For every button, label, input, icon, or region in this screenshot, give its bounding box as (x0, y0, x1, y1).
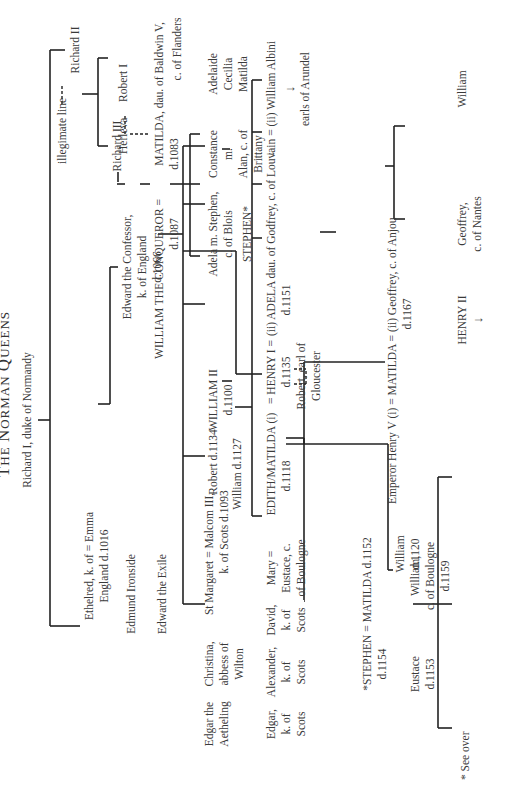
person-edward-exile: Edward the Exile (155, 554, 170, 634)
person-david-title: k. of (279, 609, 294, 630)
person-william-boulogne-death: d.1159 (438, 560, 453, 591)
person-mary-spouse-title: of Boulogne (294, 539, 309, 596)
person-adela-blois-spouse: c. of Blois (221, 210, 236, 258)
person-robert-i: Robert I (116, 64, 131, 102)
person-edgar-scots-title: k. of (279, 713, 294, 734)
person-cecilia: Cecilia (221, 58, 236, 91)
legend-label: illegimate line (55, 98, 70, 164)
person-william-ii-death: d.1100 (221, 384, 236, 415)
person-constance-m: m. (221, 148, 236, 160)
earls-of-arundel: earls of Arundel (298, 52, 313, 126)
person-alexander-title: k. of (279, 661, 294, 682)
person-henry-i-death: d.1135 (279, 356, 294, 387)
person-alexander: Alexander, (264, 647, 279, 697)
person-edward-confessor: Edward the Confessor, (120, 215, 135, 320)
family-tree-page: THE NORMAN QUEENS (0, 0, 506, 794)
person-matilda-flanders-title: c. of Flanders (170, 18, 185, 81)
person-geoffrey-nantes-title: c. of Nantes (470, 196, 485, 251)
person-mary: Mary = (264, 551, 279, 585)
person-stephen-death: d.1154 (375, 648, 390, 679)
person-edward-confessor-title: k. of England (135, 236, 150, 298)
person-robert-gloucester: Robert, earl of (294, 343, 309, 410)
person-mary-spouse: Eustace, c. (279, 543, 294, 593)
person-adela-louvain-death: d.1151 (279, 284, 294, 315)
person-herleva: Herleva (116, 118, 131, 154)
person-adelaide: Adelaide (206, 53, 221, 95)
person-edgar-scots: Edgar, (264, 709, 279, 739)
person-matilda-flanders: MATILDA, dau. of Baldwin V, (152, 22, 167, 166)
person-margaret-malcolm: St Margaret = Malcom III, (202, 493, 217, 615)
person-richard-ii: Richard II (68, 27, 83, 74)
person-alexander-realm: Scots (294, 660, 309, 685)
person-william-boulogne-title: c. of Boulogne (423, 542, 438, 610)
person-william-clito: William d.1127 (230, 438, 245, 509)
person-christina: Christina, (202, 641, 217, 686)
person-henry-i: = HENRY I = (264, 340, 279, 404)
person-william-ii: WILLIAM II (206, 369, 221, 431)
person-eustace-death: d.1153 (423, 658, 438, 689)
person-geoffrey-nantes: Geoffrey, (455, 202, 470, 245)
person-william-anjou: William (455, 70, 470, 107)
arundel-arrow-icon: ↓ (282, 86, 298, 93)
person-ethelred-death: England d.1016 (97, 530, 112, 603)
person-adela-blois: Adela m. Stephen, (206, 192, 221, 277)
person-matilda-flanders-death: d.1083 (167, 138, 182, 170)
person-stephen-star: STEPHEN* (240, 206, 255, 262)
person-matilda-daughter: Matilda (236, 56, 251, 92)
person-edgar-atheling-title: Aetheling (217, 701, 232, 746)
person-david: David, (264, 605, 279, 636)
person-william-1120-death: d.1120 (408, 538, 423, 569)
person-constance-spouse: Alan, c. of (236, 130, 251, 179)
person-richard-i: Richard I, duke of Normandy (20, 352, 35, 488)
person-empress-matilda: Emperor Henry V (i) = MATILDA = (ii) Geo… (385, 217, 400, 504)
henry-ii-arrow-icon: ↓ (470, 317, 486, 324)
person-robert-gloucester-title: Gloucester (309, 351, 324, 401)
person-edgar-atheling: Edgar the (202, 702, 217, 746)
person-christina-place: Wilton (232, 648, 247, 679)
person-edith-matilda: EDITH/MATILDA (i) (264, 413, 279, 516)
person-edith-matilda-death: d.1118 (279, 461, 294, 492)
person-william-1120: William (393, 535, 408, 572)
footnote: * See over (458, 731, 473, 780)
person-robert-curthose: Robert d.1134 (206, 429, 221, 494)
person-adela-louvain: (ii) ADELA dau. of Godfrey, c. of Louvai… (264, 41, 279, 336)
person-william-conqueror-death: d.1087 (167, 218, 182, 250)
person-edgar-scots-realm: Scots (294, 712, 309, 737)
person-christina-title: abbess of (217, 642, 232, 685)
person-henry-ii: HENRY II (455, 295, 470, 344)
person-eustace: Eustace (408, 656, 423, 692)
person-constance: Constance (206, 130, 221, 178)
person-david-realm: Scots (294, 608, 309, 633)
person-stephen-matilda: *STEPHEN = MATILDA d.1152 (360, 537, 375, 691)
person-empress-matilda-death: d.1167 (400, 298, 415, 329)
person-edmund-ironside: Edmund Ironside (124, 554, 139, 634)
person-ethelred-emma: Ethelred, k. of = Emma (82, 512, 97, 620)
person-william-conqueror: WILLIAM THE CONQUEROR = (152, 199, 167, 359)
